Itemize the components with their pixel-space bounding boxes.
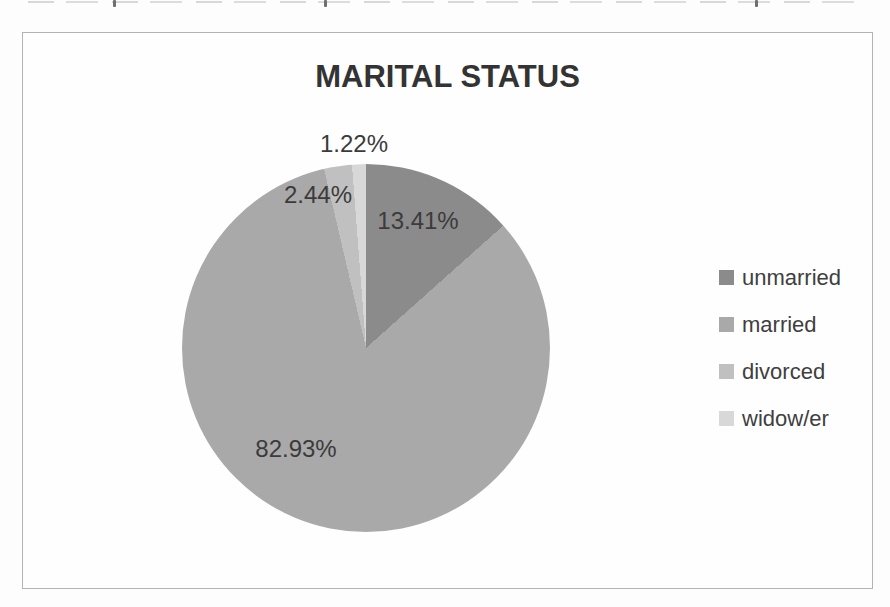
chart-title: MARITAL STATUS [23,59,872,95]
data-label-divorced: 2.44% [284,181,352,209]
legend-label-unmarried: unmarried [742,265,841,291]
pie-chart-frame: MARITAL STATUS 1.22% 2.44% 13.41% 82.93%… [22,32,873,589]
legend-item-widower: widow/er [719,395,841,442]
cropped-text-remnant-tick [755,0,758,7]
legend-swatch-widower [719,411,734,426]
legend-swatch-unmarried [719,270,734,285]
legend-swatch-married [719,317,734,332]
cropped-text-remnant-tick [324,0,327,7]
legend-label-divorced: divorced [742,359,825,385]
data-label-married: 82.93% [255,435,336,463]
cropped-text-remnant-strip [28,1,858,3]
legend-item-married: married [719,301,841,348]
legend-label-widower: widow/er [742,406,829,432]
legend-item-unmarried: unmarried [719,254,841,301]
pie-chart [182,164,550,532]
legend-item-divorced: divorced [719,348,841,395]
cropped-text-remnant [0,0,890,8]
data-label-unmarried: 13.41% [377,207,458,235]
data-label-widower: 1.22% [320,130,388,158]
cropped-text-remnant-tick [113,0,116,7]
chart-legend: unmarried married divorced widow/er [719,254,841,442]
legend-swatch-divorced [719,364,734,379]
legend-label-married: married [742,312,817,338]
